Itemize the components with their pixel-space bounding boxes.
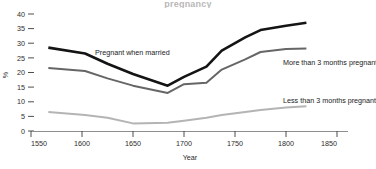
- y-axis-tick-labels: 0 5 10 15 20 25 30 35 40: [17, 10, 25, 136]
- line-chart-svg: 0 5 10 15 20 25 30 35 40 % 1550 1600: [0, 0, 376, 169]
- x-tick-label-1600: 1600: [74, 139, 90, 148]
- y-tick-label-25: 25: [17, 54, 25, 63]
- series-label-more-than-3-months: More than 3 months pregnant: [283, 58, 376, 67]
- x-tick-label-1750: 1750: [227, 139, 243, 148]
- series-line-pregnant-when-married: [48, 23, 306, 86]
- y-axis-title: %: [1, 71, 10, 78]
- y-tick-label-10: 10: [17, 97, 25, 106]
- y-tick-label-30: 30: [17, 39, 25, 48]
- y-tick-label-5: 5: [21, 112, 25, 121]
- y-axis-ticks: [28, 14, 34, 131]
- y-tick-label-15: 15: [17, 83, 25, 92]
- x-axis-tick-labels: 1550 1600 1650 1700 1750 1800 1850: [31, 139, 337, 148]
- x-tick-label-1650: 1650: [125, 139, 141, 148]
- y-tick-label-35: 35: [17, 24, 25, 33]
- x-tick-label-1700: 1700: [176, 139, 192, 148]
- series-label-less-than-3-months: Less than 3 months pregnant: [283, 96, 376, 105]
- x-tick-label-1850: 1850: [321, 139, 337, 148]
- x-tick-label-1550: 1550: [31, 139, 47, 148]
- series-line-less-than-3-months: [48, 106, 306, 123]
- y-tick-label-20: 20: [17, 68, 25, 77]
- x-tick-label-1800: 1800: [278, 139, 294, 148]
- chart-container: pregnancy 0 5 10 15 20 25 30 35 40 %: [0, 0, 376, 169]
- series-label-pregnant-when-married: Pregnant when married: [95, 48, 170, 57]
- y-tick-label-0: 0: [21, 127, 25, 136]
- x-axis-title: Year: [183, 153, 198, 162]
- y-tick-label-40: 40: [17, 10, 25, 19]
